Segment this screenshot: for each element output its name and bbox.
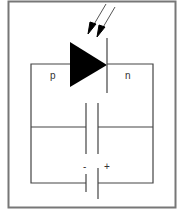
p-region-label: p (50, 70, 56, 81)
capacitor-icon (86, 103, 98, 154)
battery-icon (86, 168, 98, 199)
light-arrows-icon (88, 4, 115, 37)
circuit-diagram: p n - + (0, 0, 179, 216)
photodiode-icon (70, 38, 107, 93)
outer-frame (9, 2, 176, 208)
plus-label: + (104, 161, 110, 172)
circuit-wires (31, 64, 153, 183)
n-region-label: n (125, 70, 131, 81)
minus-label: - (83, 161, 86, 172)
